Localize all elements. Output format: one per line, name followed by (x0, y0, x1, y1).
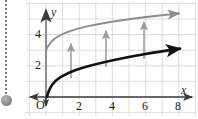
x-tick-label-4: 4 (109, 100, 115, 112)
x-tick-label-2: 2 (76, 100, 82, 112)
plot-area: y x O 4 2 2 4 6 8 (24, 0, 198, 119)
x-tick-label-8: 8 (175, 100, 181, 112)
math-figure: y x O 4 2 2 4 6 8 (0, 0, 198, 119)
x-axis-label: x (181, 84, 186, 96)
x-tick-label-6: 6 (142, 100, 148, 112)
page-binding-gutter (0, 0, 24, 119)
lower-curve-black (47, 49, 180, 97)
y-tick-label-2: 2 (35, 59, 41, 71)
y-axis-label: y (51, 6, 56, 18)
dotted-rule-decoration (5, 0, 7, 100)
gutter-bullet-icon (1, 95, 12, 106)
y-tick-label-4: 4 (35, 28, 41, 40)
origin-label: O (36, 99, 45, 111)
